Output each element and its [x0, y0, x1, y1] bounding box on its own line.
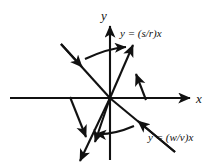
unstable-branch-upper-right: [110, 45, 133, 98]
phase-portrait-canvas: y x y = (s/r)x y = (w/v)x: [0, 0, 224, 168]
curved-arrow-upper: [85, 47, 126, 59]
phase-portrait-figure: y x y = (s/r)x y = (w/v)x: [0, 0, 224, 168]
line-unstable-steep: [80, 45, 133, 161]
eigenline-upper-label: y = (s/r)x: [119, 27, 162, 40]
unstable-arrow-lower-left-inner: [95, 98, 110, 142]
flow-arrow-left: [70, 97, 86, 137]
y-axis-label: y: [99, 8, 107, 23]
stable-arrow-upper-left: [61, 44, 82, 67]
unstable-branch-lower-left: [80, 98, 110, 161]
x-axis-label: x: [195, 91, 202, 106]
flow-arrow-right: [136, 74, 146, 100]
eigenline-lower-label: y = (w/v)x: [147, 131, 193, 144]
